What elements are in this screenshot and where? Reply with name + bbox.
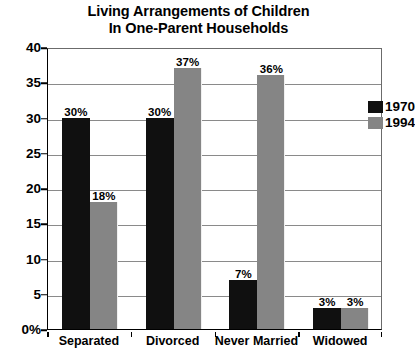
bar-value-label: 30% xyxy=(64,107,87,119)
y-tick-label: 10 xyxy=(26,253,41,267)
y-tick-label: 5 xyxy=(33,288,41,302)
chart-title: Living Arrangements of Children In One-P… xyxy=(0,3,397,37)
bar-value-label: 3% xyxy=(319,297,336,309)
legend-swatch-icon-1994 xyxy=(368,117,383,129)
bar-1970-never-married xyxy=(229,280,257,329)
bar-value-label: 18% xyxy=(92,191,115,203)
bars-layer: 30%18%30%37%7%36%3%3% xyxy=(48,49,381,329)
y-tick-label: 0% xyxy=(21,323,41,337)
chart-title-line-1: Living Arrangements of Children xyxy=(0,3,397,20)
x-tick-mark xyxy=(131,332,133,337)
x-tick-mark xyxy=(47,332,49,337)
y-axis: 0%510152025303540 xyxy=(0,48,45,330)
bar-1970-divorced xyxy=(146,118,174,330)
y-tick-label: 30 xyxy=(26,112,41,126)
chart-legend: 1970 1994 xyxy=(368,100,415,130)
legend-item-1994: 1994 xyxy=(368,116,415,130)
plot-area: 30%18%30%37%7%36%3%3% 1970 1994 xyxy=(47,48,382,330)
bar-1994-never-married xyxy=(257,75,285,329)
bar-value-label: 7% xyxy=(235,269,252,281)
y-tick-label: 15 xyxy=(26,218,41,232)
x-axis: SeparatedDivorcedNever MarriedWidowed xyxy=(47,332,382,356)
x-tick-mark xyxy=(381,332,383,337)
bar-1994-divorced xyxy=(174,68,202,329)
x-tick-mark xyxy=(298,332,300,337)
x-category-label-separated: Separated xyxy=(59,335,119,348)
y-tick-label: 25 xyxy=(26,147,41,161)
legend-swatch-icon-1970 xyxy=(368,101,383,113)
bar-1970-separated xyxy=(62,118,90,330)
bar-1970-widowed xyxy=(313,308,341,329)
x-tick-mark xyxy=(215,332,217,337)
y-tick-label: 40 xyxy=(26,41,41,55)
x-category-label-divorced: Divorced xyxy=(146,335,200,348)
chart-title-line-2: In One-Parent Households xyxy=(0,20,397,37)
bar-1994-separated xyxy=(90,202,118,329)
bar-1994-widowed xyxy=(341,308,369,329)
x-category-label-widowed: Widowed xyxy=(313,335,368,348)
bar-value-label: 37% xyxy=(176,57,199,69)
legend-item-1970: 1970 xyxy=(368,100,415,114)
bar-value-label: 36% xyxy=(260,64,283,76)
legend-label-1970: 1970 xyxy=(385,100,415,114)
bar-value-label: 3% xyxy=(347,297,364,309)
y-tick-label: 20 xyxy=(26,182,41,196)
bar-value-label: 30% xyxy=(148,107,171,119)
legend-label-1994: 1994 xyxy=(385,116,415,130)
x-category-label-never-married: Never Married xyxy=(215,335,298,348)
y-tick-label: 35 xyxy=(26,77,41,91)
